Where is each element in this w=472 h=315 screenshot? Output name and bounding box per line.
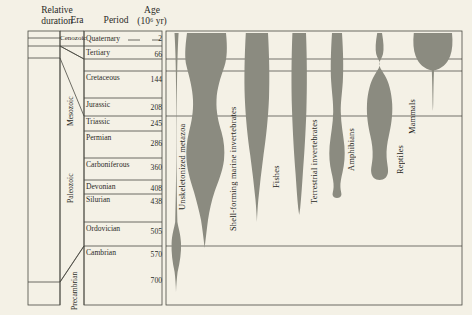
spindle-mammals	[412, 33, 452, 111]
spindle-label-reptiles: Reptiles	[396, 112, 405, 174]
period-age-cretaceous: 144	[140, 76, 162, 84]
era-label-cenozoic: Cenozoic	[60, 34, 86, 42]
period-name-silurian: Silurian	[86, 196, 110, 204]
period-name-carboniferous: Carboniferous	[86, 161, 129, 169]
period-name-cambrian: Cambrian	[86, 249, 116, 257]
period-age-quaternary: 2	[140, 35, 162, 43]
spindle-fishes	[244, 33, 269, 222]
spindle-label-unskeletonized-metazoa: Unskeletonized metazoa	[178, 60, 187, 210]
period-age-silurian: 438	[140, 198, 162, 206]
period-name-devonian: Devonian	[86, 183, 116, 191]
period-age-cambrian: 570	[140, 251, 162, 259]
period-age-triassic: 245	[140, 120, 162, 128]
period-name-jurassic: Jurassic	[86, 101, 110, 109]
spindle-label-fishes: Fishes	[272, 130, 281, 188]
spindle-shell-forming-marine-invertebrates	[185, 33, 227, 248]
period-age-tertiary: 66	[140, 51, 162, 59]
spindle-amphibians	[329, 33, 344, 198]
period-name-cretaceous: Cretaceous	[86, 74, 120, 82]
spindle-label-terrestrial-invertebrates: Terrestrial invertebrates	[310, 74, 319, 204]
period-name-quaternary: Quaternary	[86, 35, 120, 43]
spindle-label-mammals: Mammals	[408, 68, 417, 134]
spindle-label-shell-forming-marine-invertebrates: Shell-forming marine invertebrates	[229, 56, 238, 231]
period-name-triassic: Triassic	[86, 118, 110, 126]
period-name-ordovician: Ordovician	[86, 225, 120, 233]
spindle-terrestrial-invertebrates	[291, 33, 307, 215]
spindle-label-amphibians: Amphibians	[347, 93, 356, 171]
period-name-tertiary: Tertiary	[86, 49, 110, 57]
period-age-ordovician: 505	[140, 228, 162, 236]
period-age-devonian: 408	[140, 185, 162, 193]
relative-duration-column	[28, 31, 60, 305]
geologic-time-chart: Relative duration Era Period Age (10⁶ yr…	[0, 0, 472, 315]
era-label-mesozoic: Mesozoic	[66, 78, 75, 126]
spindle-reptiles	[365, 33, 392, 180]
era-label-paleozoic: Paleozoic	[66, 155, 75, 203]
period-name-permian: Permian	[86, 134, 111, 142]
period-age-jurassic: 208	[140, 104, 162, 112]
era-label-precambrian: Precambrian	[70, 250, 79, 310]
period-age-carboniferous: 360	[140, 164, 162, 172]
period-age-precambrian-base: 700	[140, 277, 162, 285]
period-age-permian: 286	[140, 140, 162, 148]
